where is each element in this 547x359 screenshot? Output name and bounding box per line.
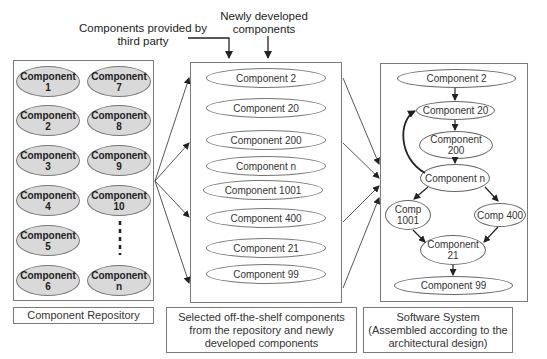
selected-caption: Selected off-the-shelf components from t… <box>166 307 357 353</box>
repo-component-10: Component 10 <box>87 185 151 216</box>
repo-component-5: Component 5 <box>16 225 80 256</box>
system-caption: Software System (Assembled according to … <box>363 307 513 353</box>
selected-component-400: Component 400 <box>206 208 326 228</box>
newly-developed-annotation: Newly developed components <box>216 10 312 36</box>
selected-component-200: Component 200 <box>206 130 326 150</box>
system-component-2: Component 2 <box>397 69 516 88</box>
repo-component-8: Component 8 <box>87 105 151 136</box>
system-component-20: Component 20 <box>416 101 495 120</box>
selected-component-1001: Component 1001 <box>203 180 323 200</box>
repo-component-3: Component 3 <box>16 145 80 176</box>
system-component-200: Component 200 <box>419 131 493 159</box>
repo-component-2: Component 2 <box>16 105 80 136</box>
system-component-400: Comp 400 <box>474 203 526 227</box>
repo-component-9: Component 9 <box>87 145 151 176</box>
component-repository-panel <box>13 60 154 301</box>
third-party-annotation: Components provided by third party <box>78 22 208 48</box>
repo-component-6: Component 6 <box>16 265 80 296</box>
repo-component-n: Component n <box>87 265 151 296</box>
system-component-1001: Comp 1001 <box>385 200 431 230</box>
selected-component-99: Component 99 <box>206 264 326 284</box>
selected-component-n: Component n <box>206 156 326 176</box>
repo-component-1: Component 1 <box>16 66 80 97</box>
system-component-21: Component 21 <box>420 235 486 265</box>
selected-component-20: Component 20 <box>206 98 326 118</box>
repository-caption: Component Repository <box>13 307 154 324</box>
selected-component-21: Component 21 <box>206 238 326 258</box>
system-component-99: Component 99 <box>394 276 513 295</box>
system-component-n: Component n <box>420 164 490 192</box>
repo-component-4: Component 4 <box>16 185 80 216</box>
selected-component-2: Component 2 <box>206 68 326 88</box>
repo-component-7: Component 7 <box>87 66 151 97</box>
